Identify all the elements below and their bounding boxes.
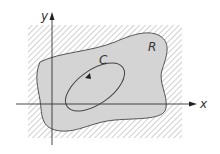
y-axis-arrow-icon: [50, 12, 55, 20]
region-label: R: [148, 40, 156, 54]
x-axis-arrow-icon: [189, 102, 197, 107]
diagram: y x R C: [0, 0, 220, 154]
y-axis-label: y: [40, 9, 49, 23]
x-axis-label: x: [199, 97, 208, 111]
curve-label: C: [99, 53, 108, 67]
